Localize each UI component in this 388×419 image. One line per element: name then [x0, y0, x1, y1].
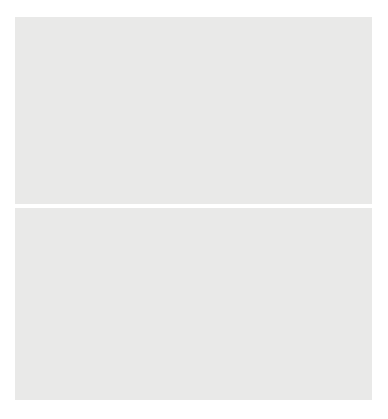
pie-diagram	[0, 0, 388, 419]
